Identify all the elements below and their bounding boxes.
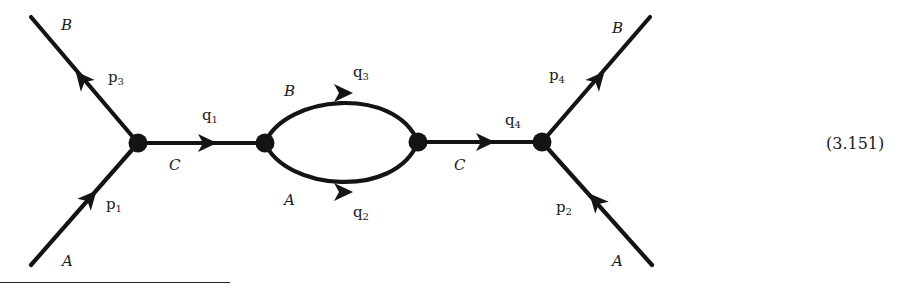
field-label-A-loop: A [284, 193, 295, 208]
arrow-q2-icon [334, 183, 353, 201]
momentum-label-q3: q3 [353, 65, 369, 82]
momentum-label-p2: p2 [556, 200, 572, 217]
field-label-B-loop: B [284, 84, 295, 99]
momentum-base: p [556, 198, 566, 216]
momentum-base: p [108, 68, 118, 86]
momentum-sub: 3 [363, 71, 369, 82]
edge-q3-B-upper-arc [265, 103, 418, 143]
field-label-A-bottom-right: A [612, 254, 623, 269]
field-label-B-top-right: B [612, 21, 623, 36]
momentum-label-q4: q4 [505, 113, 521, 130]
field-label-B-top-left: B [61, 18, 72, 33]
momentum-sub: 1 [116, 203, 122, 214]
momentum-sub: 2 [566, 206, 572, 217]
momentum-label-p4: p4 [549, 68, 565, 85]
equation-number: (3.151) [826, 134, 884, 153]
momentum-label-p3: p3 [108, 70, 124, 87]
momentum-sub: 3 [118, 76, 124, 87]
arrow-q3-icon [334, 84, 353, 102]
vertex-4 [533, 133, 552, 152]
momentum-label-p1: p1 [106, 197, 122, 214]
footnote-rule [0, 282, 230, 283]
vertex-2 [256, 134, 275, 153]
momentum-sub: 4 [515, 119, 521, 130]
vertex-1 [129, 134, 148, 153]
vertex-3 [409, 133, 428, 152]
momentum-base: q [353, 63, 363, 81]
momentum-label-q2: q2 [353, 205, 369, 222]
momentum-label-q1: q1 [202, 108, 218, 125]
field-label-C-left: C [169, 158, 180, 173]
momentum-base: q [353, 203, 363, 221]
feynman-diagram [0, 0, 924, 289]
field-label-C-right: C [454, 158, 465, 173]
momentum-base: p [106, 195, 116, 213]
momentum-base: p [549, 66, 559, 84]
edge-q2-A-lower-arc [265, 142, 418, 182]
field-label-A-bottom-left: A [62, 254, 73, 269]
momentum-sub: 1 [212, 114, 218, 125]
momentum-sub: 2 [363, 211, 369, 222]
momentum-base: q [505, 111, 515, 129]
momentum-base: q [202, 106, 212, 124]
momentum-sub: 4 [559, 74, 565, 85]
